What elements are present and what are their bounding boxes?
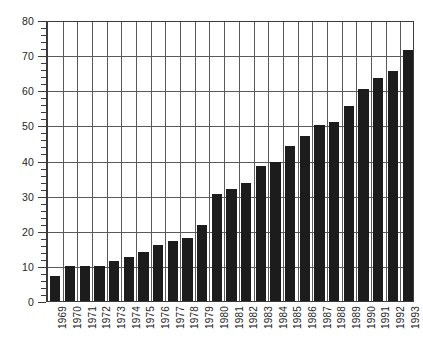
y-axis-minor-tick — [41, 77, 46, 78]
y-axis-tick-label: 70 — [22, 51, 34, 62]
y-axis-minor-tick — [41, 295, 46, 296]
y-axis-minor-tick — [41, 98, 46, 99]
x-axis-tick-label: 1985 — [293, 306, 303, 329]
bar — [94, 266, 104, 301]
x-axis-tick-label: 1981 — [235, 306, 245, 329]
bar — [256, 166, 266, 301]
y-axis-minor-tick — [41, 190, 46, 191]
bar — [197, 225, 207, 301]
x-axis-tick-label: 1987 — [323, 306, 333, 329]
y-axis-major-tick — [38, 91, 46, 92]
y-axis-minor-tick — [41, 183, 46, 184]
x-axis-tick-label: 1984 — [279, 306, 289, 329]
y-axis-tick-label: 30 — [22, 192, 34, 203]
y-axis-minor-tick — [41, 225, 46, 226]
x-axis-tick-label: 1973 — [117, 306, 127, 329]
x-axis-tick-label: 1991 — [381, 306, 391, 329]
bar — [314, 125, 324, 301]
bar — [358, 89, 368, 302]
y-axis-minor-tick — [41, 35, 46, 36]
x-axis-tick-label: 1982 — [249, 306, 259, 329]
y-axis-minor-tick — [41, 169, 46, 170]
y-axis-minor-tick — [41, 28, 46, 29]
bar — [153, 245, 163, 301]
y-axis-tick-label: 10 — [22, 262, 34, 273]
bar — [300, 136, 310, 301]
y-axis-minor-tick — [41, 105, 46, 106]
x-axis-tick-label: 1992 — [396, 306, 406, 329]
bar — [65, 266, 75, 301]
y-axis-minor-tick — [41, 281, 46, 282]
bar — [80, 266, 90, 301]
bar-chart: 01020304050607080 1969197019711972197319… — [0, 0, 423, 356]
x-axis-tick-label: 1970 — [73, 306, 83, 329]
x-axis: 1969197019711972197319741975197619771978… — [0, 302, 423, 356]
plot-area — [47, 21, 414, 302]
bar — [285, 146, 295, 301]
y-axis-major-tick — [38, 162, 46, 163]
y-axis-major-tick — [38, 56, 46, 57]
x-axis-tick-label: 1990 — [367, 306, 377, 329]
x-axis-tick-label: 1980 — [220, 306, 230, 329]
y-axis-minor-tick — [41, 288, 46, 289]
y-axis-minor-tick — [41, 204, 46, 205]
y-axis-minor-tick — [41, 246, 46, 247]
y-axis-minor-tick — [41, 239, 46, 240]
bar — [344, 106, 354, 301]
y-axis-minor-tick — [41, 112, 46, 113]
bar — [212, 194, 222, 301]
y-axis-major-tick — [38, 126, 46, 127]
y-axis-minor-tick — [41, 119, 46, 120]
bar — [226, 189, 236, 301]
x-axis-tick-label: 1977 — [176, 306, 186, 329]
y-axis-tick-label: 60 — [22, 86, 34, 97]
x-axis-tick-label: 1978 — [190, 306, 200, 329]
x-axis-tick-label: 1983 — [264, 306, 274, 329]
y-axis-minor-tick — [41, 147, 46, 148]
x-axis-tick-label: 1975 — [146, 306, 156, 329]
bar — [388, 71, 398, 301]
y-axis-minor-tick — [41, 253, 46, 254]
x-axis-tick-label: 1971 — [88, 306, 98, 329]
bar — [138, 252, 148, 301]
bar — [109, 261, 119, 301]
bars-layer — [48, 22, 413, 301]
x-axis-tick-label: 1993 — [411, 306, 421, 329]
y-axis-minor-tick — [41, 260, 46, 261]
y-axis-minor-tick — [41, 49, 46, 50]
bar — [241, 183, 251, 301]
y-axis-minor-tick — [41, 133, 46, 134]
x-axis-tick-label: 1969 — [58, 306, 68, 329]
x-axis-tick-label: 1976 — [161, 306, 171, 329]
bar — [403, 50, 413, 301]
x-axis-tick-label: 1988 — [337, 306, 347, 329]
y-axis-major-tick — [38, 197, 46, 198]
bar — [373, 78, 383, 301]
x-axis-tick-label: 1972 — [102, 306, 112, 329]
y-axis-major-tick — [38, 267, 46, 268]
y-axis-minor-tick — [41, 154, 46, 155]
y-axis-tick-label: 20 — [22, 227, 34, 238]
x-axis-tick-label: 1974 — [132, 306, 142, 329]
y-axis-tick-label: 40 — [22, 157, 34, 168]
y-axis-minor-tick — [41, 211, 46, 212]
y-axis-tick-label: 80 — [22, 16, 34, 27]
bar — [182, 238, 192, 301]
y-axis-minor-tick — [41, 176, 46, 177]
y-axis-tick-label: 50 — [22, 121, 34, 132]
bar — [168, 241, 178, 301]
bar — [50, 276, 60, 301]
y-axis-minor-tick — [41, 63, 46, 64]
y-axis-minor-tick — [41, 274, 46, 275]
x-axis-tick-label: 1989 — [352, 306, 362, 329]
bar — [124, 257, 134, 301]
y-axis-minor-tick — [41, 84, 46, 85]
y-axis-minor-tick — [41, 42, 46, 43]
bar — [329, 122, 339, 301]
x-axis-tick-label: 1986 — [308, 306, 318, 329]
y-axis-minor-tick — [41, 140, 46, 141]
y-axis-minor-tick — [41, 218, 46, 219]
y-axis-major-tick — [38, 21, 46, 22]
x-axis-tick-label: 1979 — [205, 306, 215, 329]
bar — [270, 162, 280, 301]
